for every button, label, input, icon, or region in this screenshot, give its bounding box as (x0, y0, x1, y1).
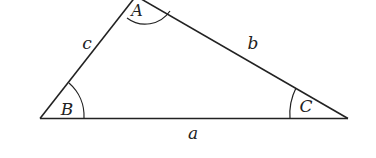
side-c (40, 0, 136, 119)
angle-arc-C (290, 88, 296, 119)
vertex-label-A: A (129, 1, 143, 20)
side-label-b: b (248, 33, 259, 53)
vertex-label-B: B (60, 99, 74, 119)
side-label-c: c (82, 33, 92, 53)
vertex-label-C: C (299, 96, 312, 116)
side-label-a: a (188, 123, 198, 143)
side-b (136, 0, 348, 119)
triangle-diagram: A B C a b c (0, 0, 376, 158)
